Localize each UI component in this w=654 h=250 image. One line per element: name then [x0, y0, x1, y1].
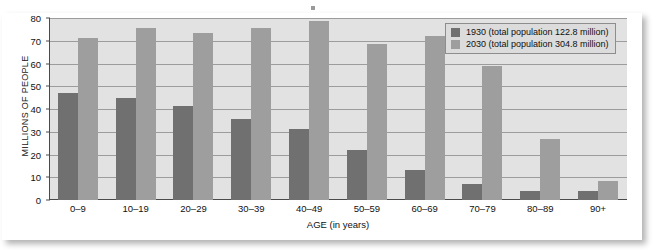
x-axis-tick-label: 20–29 — [165, 203, 223, 214]
legend-item[interactable]: 1930 (total population 122.8 million) — [451, 27, 609, 37]
gridline — [50, 18, 627, 19]
gridline — [50, 86, 627, 87]
y-axis-tick-label: 80 — [30, 13, 41, 24]
legend-swatch-icon — [451, 40, 460, 49]
x-axis-tick-label: 40–49 — [280, 203, 338, 214]
legend-label: 1930 (total population 122.8 million) — [466, 27, 609, 37]
legend-item[interactable]: 2030 (total population 304.8 million) — [451, 39, 609, 49]
y-axis-tick-label: 40 — [30, 104, 41, 115]
legend-label: 2030 (total population 304.8 million) — [466, 39, 609, 49]
y-axis-ticks: 01020304050607080 — [2, 18, 46, 200]
x-axis-tick-label: 0–9 — [49, 203, 107, 214]
x-axis-tick-label: 60–69 — [396, 203, 454, 214]
x-axis-label: AGE (in years) — [49, 219, 627, 230]
chart-card: MILLIONS OF PEOPLE 01020304050607080 0–9… — [2, 13, 642, 240]
y-axis-tick-label: 0 — [36, 195, 41, 206]
y-axis-tick-label: 50 — [30, 81, 41, 92]
gridline — [50, 155, 627, 156]
chart-legend: 1930 (total population 122.8 million)203… — [445, 23, 616, 54]
y-axis-tick-label: 60 — [30, 58, 41, 69]
chart-page: MILLIONS OF PEOPLE 01020304050607080 0–9… — [0, 0, 654, 250]
y-axis-tick-label: 30 — [30, 126, 41, 137]
x-axis-tick-label: 50–59 — [338, 203, 396, 214]
y-axis-tick-label: 70 — [30, 35, 41, 46]
gridline — [50, 109, 627, 110]
x-axis-tick-label: 90+ — [569, 203, 627, 214]
legend-swatch-icon — [451, 28, 460, 37]
y-axis-tick-label: 20 — [30, 149, 41, 160]
x-axis-tick-label: 30–39 — [222, 203, 280, 214]
gridline — [50, 132, 627, 133]
x-axis-ticks: 0–910–1920–2930–3940–4950–5960–6970–7980… — [49, 203, 627, 214]
gridline — [50, 64, 627, 65]
gridline — [50, 177, 627, 178]
scan-speck — [311, 6, 315, 10]
x-axis-tick-label: 80–89 — [511, 203, 569, 214]
bar-chart: MILLIONS OF PEOPLE 01020304050607080 0–9… — [2, 13, 642, 240]
y-axis-tick-label: 10 — [30, 172, 41, 183]
x-axis-tick-label: 70–79 — [454, 203, 512, 214]
x-axis-tick-label: 10–19 — [107, 203, 165, 214]
